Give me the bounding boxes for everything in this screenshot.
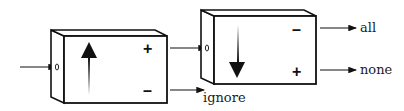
input-port-icon-2 <box>205 45 208 51</box>
box1-bottom-sign: – <box>143 82 152 99</box>
box2-top-sign: – <box>292 21 301 38</box>
diagram-canvas: + – ignore – + all none <box>0 0 404 111</box>
output-label-all: all <box>360 20 376 35</box>
filter-box-1: + – <box>51 30 167 103</box>
filter-box-2: – + <box>201 10 316 84</box>
output-label-none: none <box>360 62 393 77</box>
input-port-icon <box>55 64 58 70</box>
box2-bottom-sign: + <box>292 63 301 80</box>
output-label-ignore: ignore <box>203 90 246 105</box>
box1-top-sign: + <box>143 40 152 57</box>
